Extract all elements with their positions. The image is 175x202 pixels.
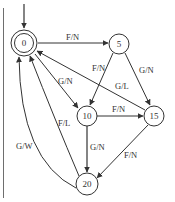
edge-label-20-0-gw: G/W [16,141,33,151]
edge-10-15: F/N [97,104,143,116]
state-10: 10 [77,106,97,126]
state-0-label: 0 [22,38,27,48]
state-diagram: F/N G/N F/N G/N G/L F/N G/N F/N F/L G/W [0,0,175,202]
state-15-label: 15 [150,111,160,121]
edge-label-15-0: G/L [115,81,129,91]
state-20: 20 [76,173,98,195]
edge-label-0-10: G/N [58,76,73,86]
edge-10-20: G/N [87,126,105,172]
state-0: 0 [11,30,37,56]
edge-label-5-10: F/N [92,63,105,73]
edge-15-20: F/N [97,125,148,178]
edge-label-20-0-fl: F/L [58,118,70,128]
state-5: 5 [109,34,129,54]
edge-0-5: F/N [38,32,108,43]
state-5-label: 5 [117,39,122,49]
edge-20-0-fl: F/L [30,56,79,176]
state-10-label: 10 [83,111,93,121]
edge-label-0-5: F/N [66,32,79,42]
state-20-label: 20 [83,179,93,189]
edge-label-15-20: F/N [124,150,137,160]
edge-5-15: G/N [125,53,154,105]
edge-label-10-15: F/N [112,104,125,114]
edge-label-10-20: G/N [90,142,105,152]
state-15: 15 [144,106,164,126]
edge-label-5-15: G/N [139,65,154,75]
edge-5-10: F/N [90,53,113,105]
